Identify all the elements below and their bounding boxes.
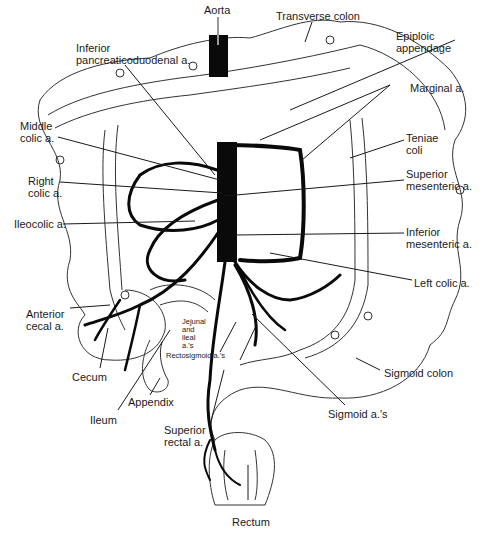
label-anterior-cecal: Anterior cecal a.	[26, 308, 65, 332]
label-superior-mesenteric: Superior mesenteric a.	[406, 168, 472, 192]
aorta-lower	[217, 142, 237, 262]
label-sigmoid-arteries: Sigmoid a.'s	[328, 408, 388, 420]
label-aorta: Aorta	[204, 4, 230, 16]
label-right-colic: Right colic a.	[28, 175, 62, 199]
label-marginal-artery: Marginal a.	[410, 82, 464, 94]
label-inferior-mesenteric: Inferior mesenteric a.	[406, 226, 472, 250]
sigmoid-colon-outline	[211, 345, 430, 440]
label-appendix: Appendix	[128, 396, 174, 408]
label-jejunal-ileal: Jejunal and ileal a.'s	[182, 318, 206, 350]
label-rectum: Rectum	[232, 516, 270, 528]
label-cecum: Cecum	[72, 371, 107, 383]
label-superior-rectal: Superior rectal a.	[164, 424, 206, 448]
label-epiploic-appendage: Epiploic appendage	[396, 30, 451, 54]
colon-arterial-diagram	[0, 0, 486, 540]
ileum-outline	[150, 285, 215, 300]
label-sigmoid-colon: Sigmoid colon	[384, 367, 453, 379]
label-transverse-colon: Transverse colon	[276, 10, 360, 22]
label-teniae-coli: Teniae coli	[406, 132, 438, 156]
label-ileocolic: Ileocolic a.	[14, 218, 66, 230]
label-middle-colic: Middle colic a.	[20, 120, 54, 144]
label-inferior-pancreaticoduodenal: Inferior pancreaticoduodenal a.	[76, 42, 190, 66]
rectum-outline	[209, 433, 274, 506]
label-left-colic: Left colic a.	[414, 277, 470, 289]
label-rectosigmoid: Rectosigmoid a.'s	[166, 352, 225, 360]
label-ileum: Ileum	[90, 414, 117, 426]
